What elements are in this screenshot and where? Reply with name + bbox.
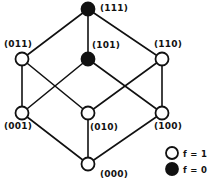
- node-label-000: (000): [100, 170, 128, 179]
- lattice-node-100[interactable]: [156, 107, 169, 120]
- node-layer: [16, 3, 169, 171]
- lattice-node-111[interactable]: [82, 3, 95, 16]
- lattice-node-101[interactable]: [82, 53, 95, 66]
- lattice-edge: [88, 9, 162, 59]
- legend-marker-layer: [166, 147, 178, 175]
- node-label-001: (001): [4, 122, 32, 131]
- lattice-node-001[interactable]: [16, 107, 29, 120]
- node-label-111: (111): [100, 4, 128, 13]
- lattice-node-000[interactable]: [82, 158, 95, 171]
- node-label-101: (101): [92, 41, 120, 50]
- lattice-node-011[interactable]: [16, 53, 29, 66]
- node-label-010: (010): [90, 123, 118, 132]
- legend-label-f-1: f = 1: [183, 150, 207, 159]
- node-label-100: (100): [154, 122, 182, 131]
- lattice-edge: [22, 9, 88, 59]
- legend-marker-open-circle: [166, 147, 178, 159]
- lattice-node-010[interactable]: [82, 107, 95, 120]
- lattice-edge: [88, 113, 162, 164]
- boolean-lattice-diagram: (111)(011)(101)(110)(001)(010)(100)(000)…: [0, 0, 209, 183]
- edge-layer: [22, 9, 162, 164]
- node-label-110: (110): [154, 40, 182, 49]
- legend-label-f-0: f = 0: [183, 166, 207, 175]
- lattice-node-110[interactable]: [156, 53, 169, 66]
- legend-marker-filled-circle: [166, 163, 178, 175]
- lattice-canvas: [0, 0, 209, 183]
- node-label-011: (011): [4, 40, 32, 49]
